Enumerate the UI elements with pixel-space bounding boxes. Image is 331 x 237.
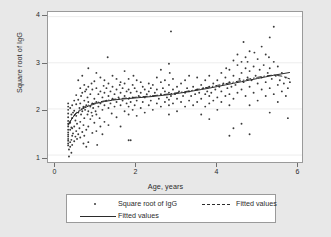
plot-canvas [48, 12, 302, 162]
scatter-points [67, 26, 291, 158]
y-tick-label-2: 2 [26, 106, 40, 113]
x-tick-mark-6 [297, 163, 298, 167]
x-tick-label-0: 0 [47, 168, 63, 175]
x-axis-title: Age, years [0, 182, 331, 191]
y-tick-label-1: 1 [26, 154, 40, 161]
fitted-line-solid [68, 72, 290, 125]
legend-marker-dot-icon [94, 203, 96, 205]
legend-line-solid-icon [80, 216, 116, 217]
chart-figure: Square root of IgG 4 3 2 1 0 2 4 6 Age, … [0, 0, 331, 237]
x-tick-label-2: 2 [128, 168, 144, 175]
y-tick-label-3: 3 [26, 59, 40, 66]
legend-label-scatter: Square root of IgG [118, 199, 177, 208]
fitted-line-dash-dot [68, 75, 290, 125]
x-tick-label-4: 4 [209, 168, 225, 175]
legend-line-dash-dot-icon [202, 204, 230, 205]
plot-area [47, 11, 303, 163]
y-tick-label-4: 4 [26, 11, 40, 18]
gridlines [48, 17, 302, 155]
y-axis-title: Square root of IgG [15, 8, 24, 118]
legend: Square root of IgG Fitted values Fitted … [66, 194, 276, 223]
x-tick-mark-0 [54, 163, 55, 167]
x-tick-label-6: 6 [290, 168, 306, 175]
x-tick-mark-4 [216, 163, 217, 167]
legend-label-fitted-dash-dot: Fitted values [236, 199, 277, 208]
legend-label-fitted-solid: Fitted values [118, 211, 159, 220]
x-tick-mark-2 [135, 163, 136, 167]
